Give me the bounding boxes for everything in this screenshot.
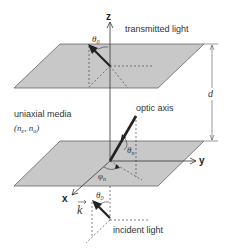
media-label: uniaxial media [14,109,72,119]
k-vector-label: k [77,203,83,217]
indices-label: (ne, no) [14,123,39,134]
theta0-bottom-label: θ0 [96,190,103,201]
y-axis-label: y [199,155,205,166]
optics-diagram: z θ0 transmitted light d uniaxial media … [0,0,229,251]
transmitted-light-label: transmitted light [125,24,189,34]
x-axis-label: x [62,193,68,204]
optic-axis-label: optic axis [136,103,174,113]
thickness-label: d [208,88,214,99]
theta0-top-label: θ0 [92,34,99,45]
incident-light-label: incident light [113,225,164,235]
z-axis-label: z [106,11,111,22]
bottom-plane [14,141,204,186]
